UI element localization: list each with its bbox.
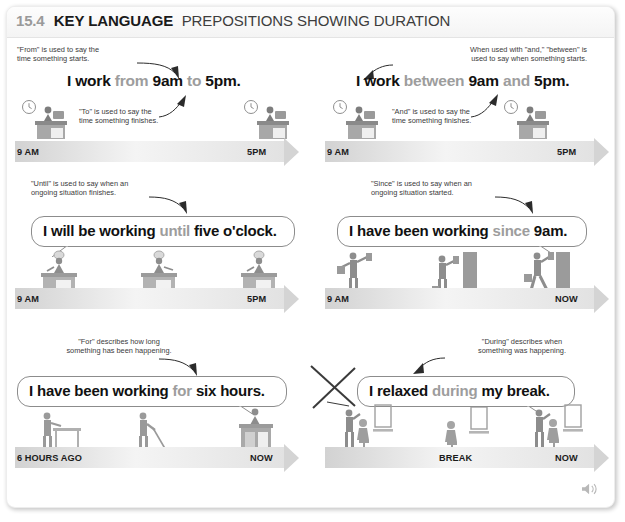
timeline-start-label: 9 AM	[17, 294, 39, 304]
preposition-during: during	[432, 382, 477, 399]
sentence-from-to: I work from 9am to 5pm.	[67, 72, 241, 90]
preposition-between: between	[404, 72, 465, 89]
timeline-start-label: 9 AM	[327, 147, 349, 157]
timeline-end-label: NOW	[250, 453, 273, 463]
figure-clock-desk-worker	[332, 99, 388, 141]
note-during: "During" describes when something was ha…	[427, 337, 615, 356]
section-number: 15.4	[16, 12, 44, 29]
note-and: "And" is used to say the time something …	[392, 107, 471, 126]
preposition-since: since	[493, 222, 530, 239]
preposition-to: to	[187, 72, 201, 89]
timeline-end-label: NOW	[555, 453, 578, 463]
figure-hairdresser	[527, 403, 589, 453]
speech-bubble-since: I have been working since 9am.	[337, 216, 587, 247]
figure-clock-desk-worker	[21, 99, 77, 141]
sentence-for: I have been working for six hours.	[29, 382, 265, 399]
sentence-part: 9am.	[530, 222, 567, 239]
figure-worker-desk	[229, 405, 281, 453]
sentence-between-and: I work between 9am and 5pm.	[356, 72, 569, 90]
pointer-for	[157, 351, 199, 377]
sentence-part: my break.	[478, 382, 550, 399]
header-text: 15.4 KEY LANGUAGE PREPOSITIONS SHOWING D…	[16, 12, 450, 30]
speech-bubble-until: I will be working until five o'clock.	[31, 216, 295, 247]
key-language-label: KEY LANGUAGE	[54, 12, 173, 29]
sentence-part: I have been working	[29, 382, 173, 399]
timeline-end-label: 5PM	[247, 294, 266, 304]
sentence-part: 5pm.	[530, 72, 569, 89]
timeline-mid-label: BREAK	[439, 453, 472, 463]
timeline-start-label: 9 AM	[17, 147, 39, 157]
sentence-part: 9am	[464, 72, 503, 89]
lesson-page: 15.4 KEY LANGUAGE PREPOSITIONS SHOWING D…	[6, 6, 615, 508]
preposition-for: for	[173, 382, 192, 399]
page-header: 15.4 KEY LANGUAGE PREPOSITIONS SHOWING D…	[7, 7, 614, 38]
timeline-start-label: 9 AM	[327, 294, 349, 304]
timeline-start-label: 6 HOURS AGO	[17, 453, 82, 463]
sentence-part: six hours.	[192, 382, 265, 399]
speaker-icon[interactable]	[580, 481, 600, 497]
page-title: PREPOSITIONS SHOWING DURATION	[182, 12, 451, 29]
sentence-part: 9am	[148, 72, 187, 89]
sentence-since: I have been working since 9am.	[349, 222, 567, 239]
sentence-part: I relaxed	[369, 382, 432, 399]
sentence-part: I work	[67, 72, 115, 89]
sentence-during: I relaxed during my break.	[369, 382, 550, 399]
note-between: When used with "and," "between" is used …	[387, 45, 587, 64]
note-to: "To" is used to say the time something f…	[79, 107, 158, 126]
sentence-part: I will be working	[43, 222, 159, 239]
note-until: "Until" is used to say when an ongoing s…	[31, 179, 128, 198]
pointer-since	[493, 189, 535, 215]
pointer-during	[407, 351, 447, 377]
preposition-until: until	[159, 222, 190, 239]
preposition-and: and	[503, 72, 530, 89]
preposition-from: from	[115, 72, 149, 89]
sentence-part: 5pm.	[201, 72, 240, 89]
note-from: "From" is used to say the time something…	[17, 45, 99, 64]
timeline-end-label: NOW	[555, 294, 578, 304]
sentence-part: I have been working	[349, 222, 493, 239]
timeline-end-label: 5PM	[557, 147, 576, 157]
sentence-part: I work	[356, 72, 404, 89]
figure-hairdresser	[337, 403, 397, 453]
speech-bubble-for: I have been working for six hours.	[17, 376, 287, 407]
timeline-end-label: 5PM	[247, 147, 266, 157]
sentence-part: five o'clock.	[190, 222, 277, 239]
note-since: "Since" is used to say when an ongoing s…	[371, 179, 472, 198]
figure-clock-desk-worker	[243, 99, 299, 141]
sentence-until: I will be working until five o'clock.	[43, 222, 277, 239]
pointer-to	[157, 95, 191, 121]
pointer-until	[147, 189, 189, 215]
figure-clock-desk-worker	[503, 99, 559, 141]
pointer-and	[469, 93, 503, 121]
